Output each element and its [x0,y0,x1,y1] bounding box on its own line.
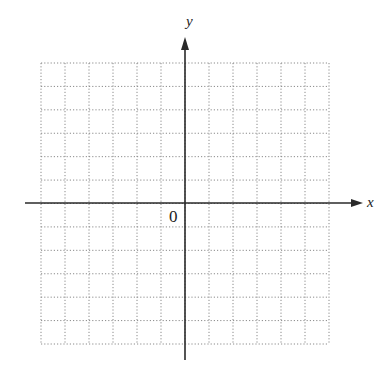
x-axis-label: x [367,194,374,211]
y-axis-arrow-icon [181,37,189,50]
y-axis-label: y [186,13,193,30]
origin-label: 0 [169,207,178,227]
coordinate-plane [0,0,385,381]
x-axis-arrow-icon [351,199,363,207]
